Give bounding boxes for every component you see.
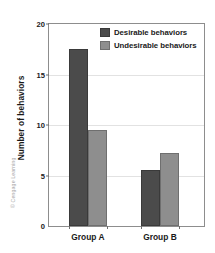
x-tick-mark-b-right: [179, 226, 180, 229]
plot-area: 20 15 10 5 0 Group A Group B: [48, 23, 205, 227]
bar-group-b-undesirable[interactable]: [160, 153, 180, 226]
y-tick-label-15: 15: [37, 70, 45, 79]
chart-legend: Desirable behaviors Undesirable behavior…: [100, 27, 197, 51]
x-tick-label-group-b: Group B: [143, 232, 177, 242]
legend-label-undesirable: Undesirable behaviors: [114, 41, 197, 50]
x-tick-label-group-a: Group A: [71, 232, 104, 242]
y-tick-mark-10: [46, 125, 49, 126]
y-tick-label-10: 10: [37, 121, 45, 130]
bar-group-a-undesirable[interactable]: [88, 130, 107, 226]
y-tick-mark-20: [46, 24, 49, 25]
y-axis-title: Number of behaviors: [16, 70, 26, 166]
y-tick-label-0: 0: [41, 222, 45, 231]
y-tick-label-20: 20: [37, 20, 45, 29]
legend-item-undesirable[interactable]: Undesirable behaviors: [100, 40, 197, 51]
x-tick-mark-b-left: [141, 226, 142, 229]
x-tick-mark-a-left: [69, 226, 70, 229]
y-tick-mark-5: [46, 175, 49, 176]
legend-label-desirable: Desirable behaviors: [114, 28, 187, 37]
bar-group-b-desirable[interactable]: [141, 170, 160, 226]
y-tick-mark-15: [46, 74, 49, 75]
y-tick-label-5: 5: [41, 171, 45, 180]
bar-chart-figure: © Cengage Learning Number of behaviors 2…: [0, 0, 215, 253]
bar-group-a-desirable[interactable]: [69, 49, 89, 226]
legend-swatch-desirable-icon: [100, 28, 110, 37]
legend-swatch-undesirable-icon: [100, 41, 110, 50]
x-tick-mark-a-right: [107, 226, 108, 229]
plot-inner: 20 15 10 5 0 Group A Group B: [49, 24, 204, 226]
legend-item-desirable[interactable]: Desirable behaviors: [100, 27, 197, 38]
